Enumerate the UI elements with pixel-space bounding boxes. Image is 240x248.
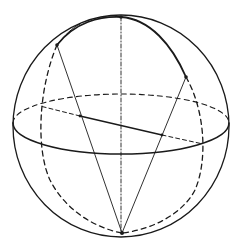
point-chord-right: [161, 134, 164, 137]
sphere-diagram: [0, 0, 240, 248]
point-upper-right: [184, 75, 188, 79]
meridian-right-dashed: [122, 77, 203, 233]
point-bottom: [120, 231, 124, 235]
chord-extension-left-dashed: [40, 106, 80, 116]
meridian-left-dashed: [41, 45, 122, 233]
point-top: [119, 15, 123, 19]
point-upper-left: [55, 43, 59, 47]
point-chord-left: [79, 115, 82, 118]
chord-extension-dashed: [162, 135, 203, 144]
line-bottom-to-upper-left: [57, 45, 122, 233]
line-bottom-to-upper-right: [122, 77, 186, 233]
diagram-svg: [0, 0, 240, 248]
